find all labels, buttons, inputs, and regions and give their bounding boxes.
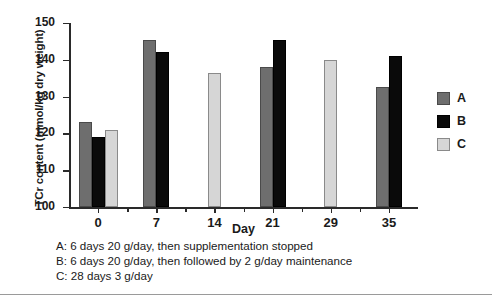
y-tick: 110: [63, 170, 69, 171]
legend-swatch-C: [437, 138, 450, 151]
legend-swatch-B: [437, 115, 450, 128]
x-tick: [331, 207, 332, 213]
y-tick-label: 120: [35, 125, 55, 139]
bottom-divider: [0, 294, 492, 295]
legend-item-C: C: [437, 135, 466, 153]
x-tick: [214, 207, 215, 213]
x-tick: [156, 207, 157, 213]
plot-area: 100110120130140150 0714212935: [69, 23, 418, 207]
bar-C-day-29: [324, 60, 337, 207]
x-axis-title: Day: [69, 222, 418, 236]
x-tick-minor: [302, 207, 303, 212]
y-tick: 120: [63, 133, 69, 134]
x-tick-minor: [127, 207, 128, 212]
x-tick: [389, 207, 390, 213]
caption-line-3: C: 28 days 3 g/day: [56, 268, 476, 283]
y-tick-label: 140: [35, 52, 55, 66]
legend-item-B: B: [437, 112, 466, 130]
x-tick-minor: [360, 207, 361, 212]
y-tick: 130: [63, 97, 69, 98]
x-tick-minor: [244, 207, 245, 212]
bar-A-day-0: [79, 122, 92, 207]
bar-C-day-0: [105, 130, 118, 207]
y-tick-label: 130: [35, 89, 55, 103]
caption-line-1: A: 6 days 20 g/day, then supplementation…: [56, 238, 476, 253]
bar-B-day-21: [273, 40, 286, 207]
x-tick: [98, 207, 99, 213]
bar-B-day-7: [156, 52, 169, 207]
bar-A-day-21: [260, 67, 273, 207]
x-tick-minor: [185, 207, 186, 212]
figure-caption: A: 6 days 20 g/day, then supplementation…: [56, 238, 476, 283]
legend-swatch-A: [437, 92, 450, 105]
bar-B-day-0: [92, 137, 105, 207]
legend-item-A: A: [437, 89, 466, 107]
bar-A-day-35: [376, 87, 389, 207]
legend-label-B: B: [457, 114, 466, 128]
bar-A-day-7: [143, 40, 156, 207]
y-tick-label: 150: [35, 15, 55, 29]
y-tick: 100: [63, 207, 69, 208]
y-axis-line: [69, 23, 71, 207]
y-tick: 150: [63, 23, 69, 24]
bar-C-day-14: [208, 73, 221, 207]
chart-figure: TCr content (mmol/kg dry weight) 1001101…: [0, 0, 492, 304]
y-tick: 140: [63, 60, 69, 61]
y-axis-title: TCr content (mmol/kg dry weight): [33, 18, 45, 218]
bar-B-day-35: [389, 56, 402, 207]
caption-line-2: B: 6 days 20 g/day, then followed by 2 g…: [56, 253, 476, 268]
y-tick-label: 110: [36, 162, 55, 176]
y-tick-label: 100: [35, 199, 55, 213]
x-tick: [273, 207, 274, 213]
chart-legend: ABC: [437, 89, 466, 158]
legend-label-A: A: [457, 91, 466, 105]
legend-label-C: C: [457, 137, 466, 151]
